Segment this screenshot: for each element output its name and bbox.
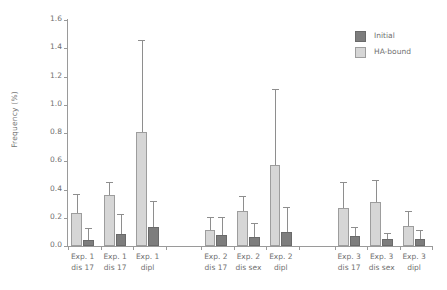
y-tick-label: 1.2	[34, 71, 62, 80]
error-bar-cap	[218, 217, 225, 218]
error-bar-cap	[117, 214, 124, 215]
y-tick-mark	[64, 77, 68, 78]
bar-ha-bound	[338, 208, 349, 246]
legend-swatch-habound	[355, 47, 366, 58]
y-tick-label: 0.4	[34, 184, 62, 193]
category-label-line2: dipl	[394, 263, 435, 274]
bar-ha-bound	[370, 202, 381, 246]
x-axis-tick	[266, 246, 267, 250]
error-bar-cap	[85, 228, 92, 229]
error-bar-line	[376, 180, 377, 203]
error-bar-line	[408, 211, 409, 225]
x-axis-tick	[299, 246, 300, 250]
y-tick-label: 0.8	[34, 127, 62, 136]
x-axis-line	[67, 246, 433, 247]
x-axis-category-label: Exp. 2dipl	[261, 252, 302, 273]
error-bar-line	[243, 196, 244, 212]
error-bar-line	[88, 228, 89, 240]
bar-initial	[116, 234, 127, 246]
category-label-line1: Exp. 1	[127, 252, 168, 263]
y-tick-label: 0.6	[34, 155, 62, 164]
x-axis-tick	[68, 246, 69, 250]
y-tick-mark	[64, 218, 68, 219]
bar-initial	[415, 239, 426, 246]
x-axis-tick	[335, 246, 336, 250]
bar-chart: Frequency (%) 0.00.20.40.60.81.01.21.41.…	[0, 0, 447, 290]
error-bar-cap	[340, 182, 347, 183]
x-axis-tick	[400, 246, 401, 250]
error-bar-cap	[351, 227, 358, 228]
error-bar-cap	[416, 230, 423, 231]
category-label-line1: Exp. 3	[394, 252, 435, 263]
error-bar-line	[343, 182, 344, 208]
bar-initial	[148, 227, 159, 246]
bar-ha-bound	[237, 211, 248, 246]
error-bar-cap	[251, 223, 258, 224]
category-label-line2: dipl	[127, 263, 168, 274]
x-axis-category-label: Exp. 1dipl	[127, 252, 168, 273]
y-tick-label: 1.0	[34, 99, 62, 108]
x-axis-tick	[166, 246, 167, 250]
category-label-line2: dipl	[261, 263, 302, 274]
error-bar-line	[275, 89, 276, 165]
bar-ha-bound	[403, 226, 414, 246]
error-bar-cap	[207, 217, 214, 218]
error-bar-line	[153, 201, 154, 227]
error-bar-cap	[239, 196, 246, 197]
bar-initial	[382, 239, 393, 246]
error-bar-cap	[73, 194, 80, 195]
y-tick-label: 1.6	[34, 14, 62, 23]
error-bar-cap	[272, 89, 279, 90]
y-tick-mark	[64, 48, 68, 49]
bar-ha-bound	[270, 165, 281, 246]
error-bar-cap	[384, 233, 391, 234]
bar-ha-bound	[205, 230, 216, 246]
x-axis-tick	[201, 246, 202, 250]
error-bar-line	[222, 217, 223, 235]
x-axis-tick	[234, 246, 235, 250]
x-axis-category-label: Exp. 3dipl	[394, 252, 435, 273]
legend-label: Initial	[374, 31, 395, 40]
bar-initial	[281, 232, 292, 246]
error-bar-cap	[138, 40, 145, 41]
error-bar-line	[77, 194, 78, 213]
error-bar-line	[254, 223, 255, 236]
y-tick-label: 1.4	[34, 42, 62, 51]
y-tick-label: 0.2	[34, 212, 62, 221]
x-axis-tick	[133, 246, 134, 250]
error-bar-cap	[150, 201, 157, 202]
bar-ha-bound	[104, 195, 115, 246]
error-bar-cap	[106, 182, 113, 183]
error-bar-cap	[405, 211, 412, 212]
legend-swatch-initial	[355, 31, 366, 42]
y-tick-mark	[64, 190, 68, 191]
error-bar-line	[210, 217, 211, 230]
bar-initial	[350, 236, 361, 246]
bar-ha-bound	[136, 132, 147, 246]
bar-initial	[216, 235, 227, 246]
error-bar-line	[109, 182, 110, 195]
error-bar-line	[121, 214, 122, 234]
y-tick-label: 0.0	[34, 240, 62, 249]
error-bar-line	[355, 227, 356, 236]
y-tick-mark	[64, 105, 68, 106]
error-bar-cap	[372, 180, 379, 181]
y-tick-mark	[64, 161, 68, 162]
bar-initial	[249, 237, 260, 246]
bar-initial	[83, 240, 94, 246]
legend-label: HA-bound	[374, 47, 411, 56]
y-tick-mark	[64, 133, 68, 134]
y-axis-title: Frequency (%)	[10, 60, 19, 180]
y-tick-mark	[64, 20, 68, 21]
x-axis-tick	[101, 246, 102, 250]
x-axis-tick	[432, 246, 433, 250]
error-bar-cap	[283, 207, 290, 208]
error-bar-line	[420, 230, 421, 239]
error-bar-line	[287, 207, 288, 232]
category-label-line1: Exp. 2	[261, 252, 302, 263]
x-axis-tick	[367, 246, 368, 250]
bar-ha-bound	[71, 213, 82, 246]
error-bar-line	[142, 40, 143, 131]
